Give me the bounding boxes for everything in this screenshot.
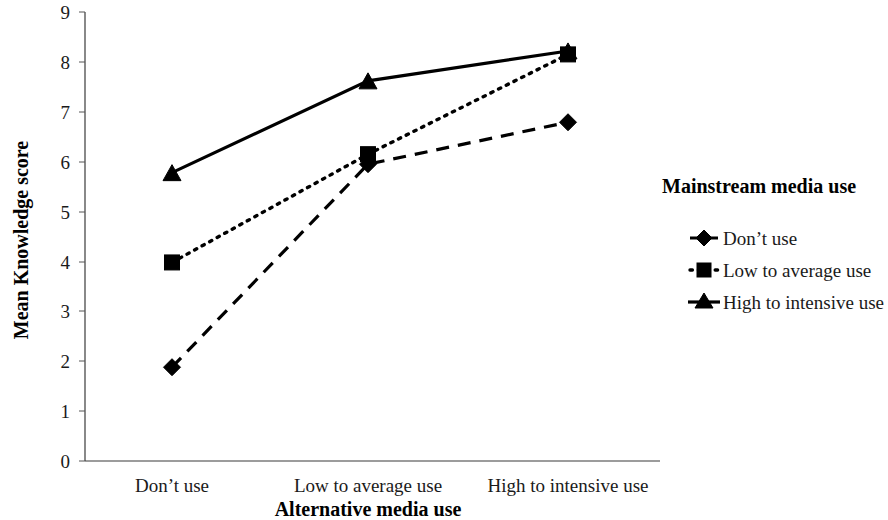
y-tick-label-0: 0: [61, 451, 71, 472]
y-axis: [79, 12, 85, 461]
legend-marker-diamond: [696, 230, 712, 246]
series-layer: [163, 43, 577, 376]
data-point-1-1: [361, 147, 376, 162]
chart-figure: 9 8 7 6 5 4 3 2 1 0 Mean Knowledge score…: [0, 0, 888, 520]
legend-item-dont-use[interactable]: Don’t use: [690, 228, 797, 249]
data-point-2-0: [163, 165, 181, 181]
x-axis-title: Alternative media use: [275, 498, 462, 520]
data-point-0-2: [560, 114, 577, 131]
y-tick-label-4: 4: [61, 252, 71, 273]
legend: Mainstream media use Don’t use Low to av…: [662, 175, 884, 313]
legend-label-0: Don’t use: [723, 228, 797, 249]
y-tick-label-8: 8: [61, 52, 71, 73]
legend-item-low-to-average-use[interactable]: Low to average use: [690, 260, 871, 281]
y-tick-label-5: 5: [61, 202, 71, 223]
legend-title: Mainstream media use: [662, 175, 856, 197]
y-tick-label-2: 2: [61, 351, 71, 372]
y-tick-label-3: 3: [61, 301, 71, 322]
x-tick-label-2: High to intensive use: [488, 475, 649, 496]
y-tick-label-1: 1: [61, 401, 71, 422]
y-tick-label-6: 6: [61, 152, 71, 173]
y-axis-title: Mean Knowledge score: [10, 141, 33, 340]
x-tick-label-0: Don’t use: [135, 475, 209, 496]
legend-marker-square: [697, 263, 711, 277]
x-tick-label-1: Low to average use: [294, 475, 442, 496]
y-tick-label-7: 7: [61, 102, 71, 123]
data-point-1-0: [165, 255, 180, 270]
legend-label-1: Low to average use: [723, 260, 871, 281]
legend-item-high-to-intensive-use[interactable]: High to intensive use: [688, 292, 884, 313]
line-chart-canvas: 9 8 7 6 5 4 3 2 1 0 Mean Knowledge score…: [0, 0, 888, 520]
legend-label-2: High to intensive use: [723, 292, 884, 313]
y-tick-label-9: 9: [61, 2, 71, 23]
